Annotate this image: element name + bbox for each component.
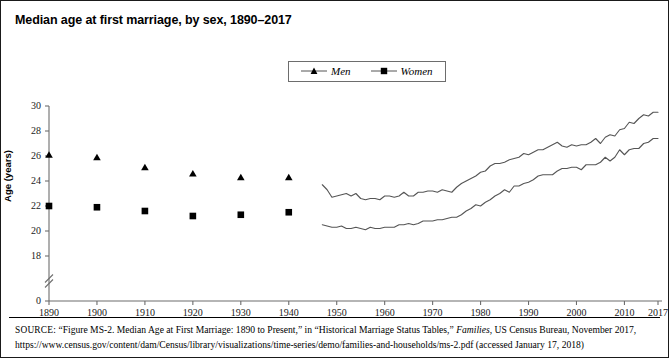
x-axis: 1890190019101920193019401950196019701980… [39, 301, 668, 318]
source-divider [9, 317, 660, 318]
data-series-group [45, 112, 658, 230]
figure-container: Median age at first marriage, by sex, 18… [0, 0, 669, 358]
svg-text:22: 22 [31, 200, 41, 211]
source-text-part1: “Figure MS-2. Median Age at First Marria… [56, 324, 456, 335]
chart-plot-area: 018202224262830 189019001910192019301940… [1, 1, 669, 358]
svg-text:18: 18 [31, 250, 41, 261]
svg-text:26: 26 [31, 150, 41, 161]
svg-text:28: 28 [31, 125, 41, 136]
svg-text:0: 0 [36, 295, 41, 306]
source-publication: Families [456, 324, 490, 335]
svg-text:24: 24 [31, 175, 41, 186]
svg-text:30: 30 [31, 100, 41, 111]
source-note: SOURCE: “Figure MS-2. Median Age at Firs… [15, 323, 660, 351]
source-label: SOURCE: [15, 325, 56, 335]
svg-text:20: 20 [31, 225, 41, 236]
